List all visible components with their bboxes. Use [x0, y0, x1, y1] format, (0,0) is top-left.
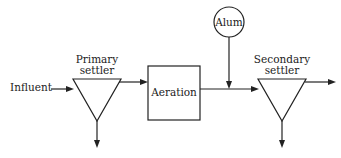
aeration-label: Aeration — [150, 86, 197, 98]
secondary-sludge-arrow — [279, 121, 285, 148]
primary-settler-label-line2: settler — [80, 64, 116, 76]
alum-feed-arrow — [226, 37, 232, 89]
alum-label: Alum — [214, 16, 243, 28]
primary-settler-triangle — [73, 79, 121, 121]
influent-arrow — [51, 86, 74, 92]
secondary-settler-label-line2: settler — [265, 64, 301, 76]
primary-sludge-arrow — [94, 121, 100, 148]
effluent-arrow — [305, 79, 336, 85]
secondary-settler-triangle — [258, 79, 306, 121]
primary-to-aeration-arrow — [119, 79, 148, 85]
wastewater-treatment-flow-diagram: Influent Primary settler Aeration Alum S… — [0, 0, 341, 158]
influent-label: Influent — [10, 81, 53, 93]
